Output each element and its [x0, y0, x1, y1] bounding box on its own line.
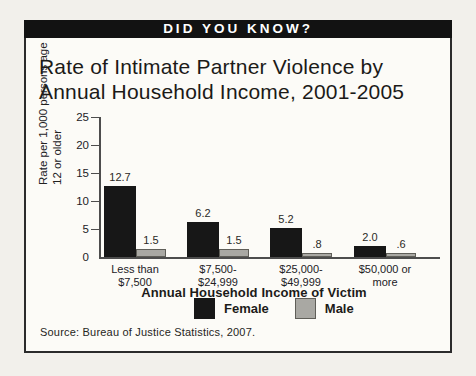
category-label-line: $7,500- — [173, 263, 263, 276]
y-tick — [91, 229, 99, 231]
infographic-card: DID YOU KNOW? Rate of Intimate Partner V… — [24, 20, 452, 353]
bar-male — [136, 249, 166, 257]
bar-male — [302, 253, 332, 257]
value-label-female: 5.2 — [260, 212, 312, 227]
chart-panel: Rate of Intimate Partner Violence by Ann… — [24, 38, 452, 353]
legend: FemaleMale — [194, 298, 380, 319]
category-label-line: $50,000 or — [340, 263, 430, 276]
legend-swatch-male — [295, 298, 316, 319]
y-tick — [91, 201, 99, 203]
page-background: { "banner": { "title": "DID YOU KNOW?" }… — [0, 0, 476, 376]
bar-male — [386, 253, 416, 257]
x-axis-line — [99, 257, 440, 259]
value-label-male: .8 — [292, 237, 342, 252]
value-label-female: 6.2 — [177, 206, 229, 221]
chart-title: Rate of Intimate Partner Violence by Ann… — [39, 54, 404, 104]
bar-male — [219, 249, 249, 257]
value-label-female: 12.7 — [94, 170, 146, 185]
source-note: Source: Bureau of Justice Statistics, 20… — [40, 326, 255, 338]
y-tick-label: 15 — [63, 166, 89, 180]
category-label-line: $25,000- — [256, 263, 346, 276]
y-axis-line — [99, 117, 101, 257]
legend-swatch-female — [194, 298, 215, 319]
y-tick-label: 20 — [63, 138, 89, 152]
y-tick-label: 25 — [63, 110, 89, 124]
chart-title-line1: Rate of Intimate Partner Violence by — [39, 54, 404, 79]
y-tick-label: 5 — [63, 222, 89, 236]
banner-title: DID YOU KNOW? — [163, 21, 313, 36]
y-tick — [91, 145, 99, 147]
value-label-male: 1.5 — [126, 233, 176, 248]
y-tick-label: 0 — [63, 250, 89, 264]
category-label-line: Less than — [90, 263, 180, 276]
y-tick — [91, 117, 99, 119]
value-label-male: .6 — [376, 237, 426, 252]
y-tick-label: 10 — [63, 194, 89, 208]
chart-title-line2: Annual Household Income, 2001-2005 — [39, 79, 404, 104]
banner: DID YOU KNOW? — [24, 20, 452, 38]
legend-label-female: Female — [224, 301, 269, 316]
legend-label-male: Male — [325, 301, 354, 316]
value-label-male: 1.5 — [209, 233, 259, 248]
